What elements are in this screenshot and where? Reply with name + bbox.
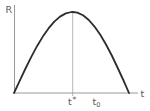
chart-figure: R t t * t 0 <box>0 0 150 111</box>
r-curve <box>14 12 129 93</box>
r-vs-t-chart: R t t * t 0 <box>0 0 150 111</box>
y-axis-label: R <box>6 4 13 15</box>
t0-tick-label-sub: 0 <box>96 101 100 109</box>
peak-tick-label-base: t <box>68 96 72 107</box>
peak-tick-label-sup: * <box>73 95 77 104</box>
x-axis-label: t <box>141 88 145 99</box>
